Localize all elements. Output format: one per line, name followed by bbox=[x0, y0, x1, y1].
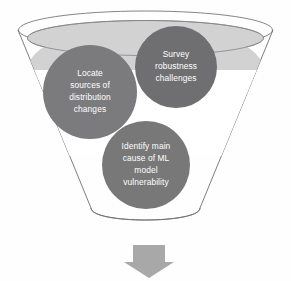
bubble-survey-robustness-line-0: Survey bbox=[163, 49, 190, 59]
bubble-identify-cause-line-1: cause of ML bbox=[123, 153, 170, 163]
funnel-diagram-canvas: Locate sources of distribution changes S… bbox=[0, 0, 291, 281]
down-arrow-icon bbox=[124, 245, 174, 278]
bubble-identify-cause-line-3: vulnerability bbox=[123, 177, 169, 187]
bubble-locate-sources[interactable]: Locate sources of distribution changes bbox=[43, 45, 137, 139]
bubble-locate-sources-line-1: sources of bbox=[70, 80, 110, 90]
bubble-identify-cause-line-2: model bbox=[134, 165, 157, 175]
bubble-locate-sources-line-2: distribution bbox=[69, 92, 111, 102]
bubble-locate-sources-line-0: Locate bbox=[77, 68, 103, 78]
bubble-survey-robustness-line-1: robustness bbox=[155, 61, 197, 71]
funnel-diagram: Locate sources of distribution changes S… bbox=[0, 0, 291, 281]
bubble-identify-cause-line-0: Identify main bbox=[122, 141, 171, 151]
bubble-survey-robustness[interactable]: Survey robustness challenges bbox=[135, 26, 217, 108]
funnel-bottom-curve bbox=[91, 208, 200, 220]
bubble-identify-cause[interactable]: Identify main cause of ML model vulnerab… bbox=[102, 121, 190, 209]
bubble-locate-sources-line-3: changes bbox=[74, 104, 106, 114]
bubble-survey-robustness-line-2: challenges bbox=[155, 73, 196, 83]
